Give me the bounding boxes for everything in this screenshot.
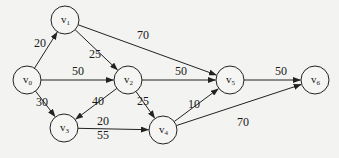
node-label-subscript: 1 (67, 19, 71, 27)
node-label-subscript: 4 (165, 129, 169, 137)
node-v0: v0 (13, 66, 41, 94)
node-v1: v1 (51, 6, 79, 34)
edge-weight-label: 30 (36, 95, 48, 109)
node-label-subscript: 0 (29, 79, 33, 87)
node-v5: v5 (216, 66, 244, 94)
edge-weight-label: 50 (72, 64, 84, 78)
edge-weight-label: 50 (275, 64, 287, 78)
node-label-subscript: 6 (317, 79, 321, 87)
edge-weight-label: 40 (92, 94, 104, 108)
node-label-subscript: 5 (232, 79, 236, 87)
node-label-subscript: 3 (66, 127, 70, 135)
edge-weight-label: 10 (188, 97, 200, 111)
edge-weight-label: 25 (89, 47, 101, 61)
edge-weight-label: 20 (34, 36, 46, 50)
node-v6: v6 (301, 66, 329, 94)
node-v3: v3 (50, 114, 78, 142)
node-v4: v4 (149, 116, 177, 144)
edge-weight-label: 25 (137, 94, 149, 108)
edge-weight-label: 55 (97, 128, 109, 142)
edge-weight-label: 70 (237, 115, 249, 129)
edge-weight-label: 70 (137, 28, 149, 42)
graph-diagram: 20503025704025502055107050 v0v1v2v3v4v5v… (0, 0, 339, 158)
edge-weight-label: 50 (175, 64, 187, 78)
node-v2: v2 (114, 66, 142, 94)
edge-weight-label: 20 (97, 114, 109, 128)
graph-svg: 20503025704025502055107050 v0v1v2v3v4v5v… (0, 0, 339, 158)
node-label-subscript: 2 (130, 79, 134, 87)
edge-v3-v4 (78, 128, 149, 129)
